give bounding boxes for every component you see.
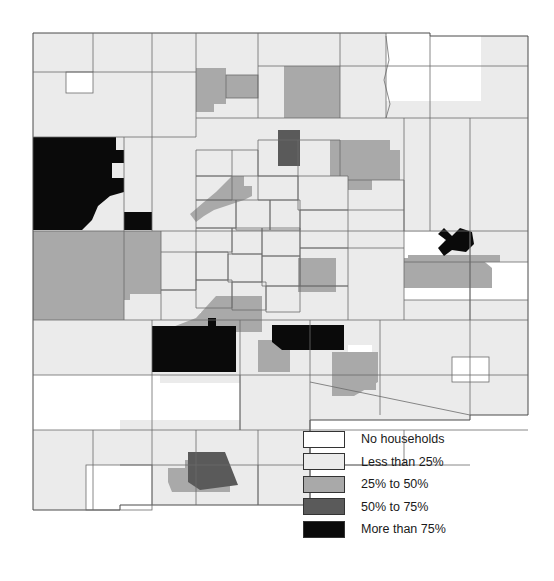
legend-label-no-households: No households (361, 433, 444, 446)
map-region-w-black-spur (124, 212, 152, 230)
legend-item-more-than-75[interactable]: More than 75% (303, 518, 493, 541)
legend-swatch-more-than-75 (303, 521, 345, 538)
legend-swatch-25-to-50 (303, 476, 345, 493)
legend-label-less-than-25: Less than 25% (361, 456, 444, 469)
legend-item-50-to-75[interactable]: 50% to 75% (303, 496, 493, 519)
legend-label-more-than-75: More than 75% (361, 523, 446, 536)
map-legend: No households Less than 25% 25% to 50% 5… (303, 428, 493, 541)
legend-swatch-no-households (303, 431, 345, 448)
map-region-e-gray-big (404, 258, 492, 288)
map-region-s-white-wedge (151, 383, 240, 420)
legend-label-50-to-75: 50% to 75% (361, 501, 428, 514)
legend-item-25-to-50[interactable]: 25% to 50% (303, 473, 493, 496)
legend-swatch-less-than-25 (303, 453, 345, 470)
map-region-c-dark-patch (278, 130, 300, 166)
legend-swatch-50-to-75 (303, 498, 345, 515)
map-region-e-gray-mid (340, 355, 376, 390)
choropleth-map-figure: No households Less than 25% 25% to 50% 5… (0, 0, 554, 581)
map-region-c-gray-band-east (298, 258, 336, 292)
map-region-e-white-band (404, 232, 444, 258)
map-region-sw-inset-square (86, 465, 152, 510)
legend-item-no-households[interactable]: No households (303, 428, 493, 451)
map-region-ne-corner-block (386, 33, 481, 101)
map-region-nw-inset-square (66, 72, 93, 93)
map-region-e-white-inset (452, 357, 489, 382)
map-region-se-black-strip (272, 325, 344, 350)
map-region-w-gray-block-south (33, 231, 124, 320)
map-region-s-black-block (152, 318, 236, 372)
legend-item-less-than-25[interactable]: Less than 25% (303, 451, 493, 474)
legend-label-25-to-50: 25% to 50% (361, 478, 428, 491)
map-region-n-gray-patch-east (284, 66, 340, 118)
